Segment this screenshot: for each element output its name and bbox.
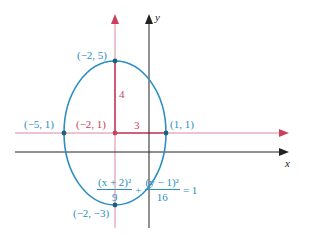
equation-rhs: = 1 [183,184,197,196]
x-axis-label: x [285,158,290,169]
shifted-y-arrow-icon [111,14,119,24]
right-vertex-point [164,131,169,136]
fraction-x-numerator: (x + 2)² [97,176,132,190]
right-vertex-label: (1, 1) [170,119,194,130]
semi-minor-length-label: 3 [134,120,140,131]
top-vertex-label: (−2, 5) [77,50,107,61]
x-arrow-icon [279,148,289,156]
left-vertex-point [62,131,67,136]
left-vertex-label: (−5, 1) [24,119,54,130]
bottom-vertex-label: (−2, −3) [73,208,109,219]
fraction-y-numerator: (y − 1)² [145,176,180,190]
plus-sign: + [135,184,141,196]
fraction-x-denominator: 9 [112,190,118,203]
y-axis-label: y [155,12,160,23]
y-arrow-icon [145,14,153,24]
fraction-y-denominator: 16 [157,190,168,203]
top-vertex-point [113,59,118,64]
fraction-x: (x + 2)² 9 [97,176,132,203]
center-point [113,131,118,136]
fraction-y: (y − 1)² 16 [145,176,180,203]
center-label: (−2, 1) [76,119,106,130]
ellipse-equation: (x + 2)² 9 + (y − 1)² 16 = 1 [97,176,197,203]
bottom-vertex-point [113,203,118,208]
shifted-x-arrow-icon [279,129,289,137]
semi-major-length-label: 4 [119,89,125,100]
